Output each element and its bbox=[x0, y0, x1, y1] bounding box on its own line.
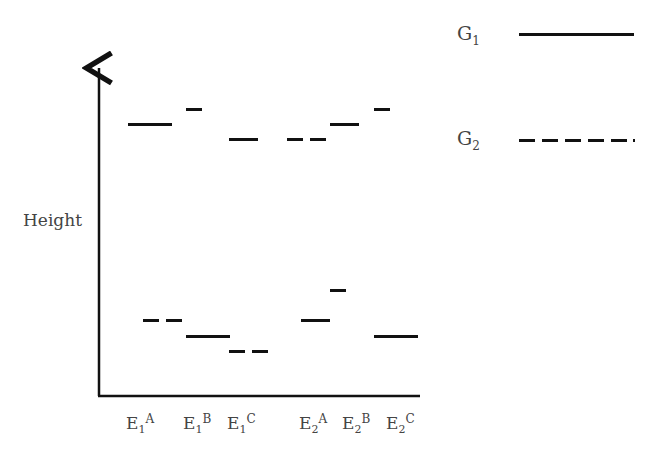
segment-e2c-lower bbox=[374, 335, 418, 338]
segment-e1b-upper bbox=[186, 108, 202, 111]
segment-e2a-lower bbox=[301, 319, 330, 322]
x-label-e2b: E2B bbox=[342, 412, 370, 436]
segment-e1c-lower-1 bbox=[229, 350, 245, 353]
segment-e1c-upper bbox=[229, 138, 258, 141]
legend-dash-3 bbox=[565, 139, 581, 142]
y-axis-label: Height bbox=[23, 210, 82, 230]
axes bbox=[0, 0, 656, 466]
legend-dash-1 bbox=[519, 139, 535, 142]
segment-e2c-upper bbox=[374, 108, 390, 111]
x-label-e2a: E2A bbox=[299, 412, 327, 436]
segment-e1a-lower-2 bbox=[166, 319, 182, 322]
x-label-e1b: E1B bbox=[183, 412, 211, 436]
x-label-e2c: E2C bbox=[386, 412, 415, 436]
segment-e1a-lower-1 bbox=[143, 319, 159, 322]
legend-dash-6 bbox=[633, 139, 635, 142]
segment-e2a-upper-2 bbox=[310, 138, 326, 141]
x-label-e1a: E1A bbox=[126, 412, 154, 436]
legend-dash-5 bbox=[611, 139, 627, 142]
x-label-e1c: E1C bbox=[227, 412, 256, 436]
legend-line-solid bbox=[519, 33, 634, 36]
legend-dash-2 bbox=[542, 139, 558, 142]
segment-e1b-lower bbox=[186, 335, 230, 338]
legend-label-g2: G2 bbox=[457, 127, 480, 153]
segment-e1a-upper bbox=[128, 123, 172, 126]
legend-dash-4 bbox=[588, 139, 604, 142]
segment-e2b-lower bbox=[330, 289, 346, 292]
segment-e1c-lower-2 bbox=[252, 350, 268, 353]
segment-e2b-upper bbox=[330, 123, 359, 126]
legend-label-g1: G1 bbox=[457, 22, 480, 48]
segment-e2a-upper-1 bbox=[287, 138, 303, 141]
